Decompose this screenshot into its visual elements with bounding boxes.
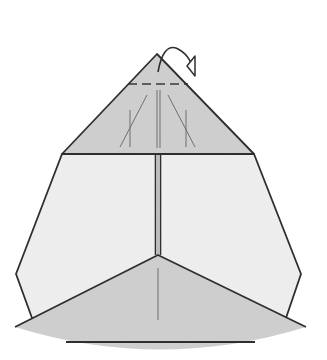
origami-diagram [0,0,327,360]
center-seam [156,154,161,255]
